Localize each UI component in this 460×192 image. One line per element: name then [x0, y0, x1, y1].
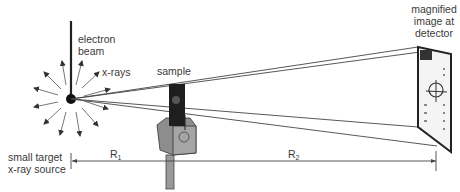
detector-label: magnified image at detector — [408, 3, 460, 39]
electron-beam-label: electron beam — [78, 33, 115, 57]
projection-rays — [71, 47, 437, 146]
distance-lines — [71, 151, 436, 171]
detector — [418, 47, 451, 152]
xrays-label: x-rays — [102, 66, 131, 78]
sample — [169, 84, 185, 130]
sample-label: sample — [157, 65, 191, 77]
sample-holder — [157, 118, 196, 189]
r1-label: R1 — [110, 148, 122, 164]
r2-label: R2 — [288, 148, 300, 164]
diagram-canvas — [0, 0, 460, 192]
source-label: small target x-ray source — [8, 151, 66, 175]
